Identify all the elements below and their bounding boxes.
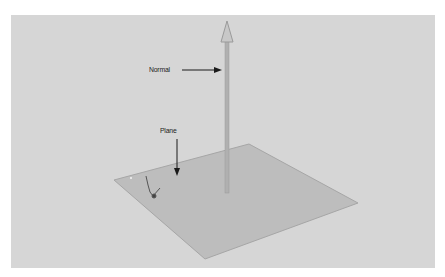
plane-label: Plane bbox=[160, 126, 177, 135]
normal-label: Normal bbox=[149, 65, 170, 74]
normal-arrowhead-icon bbox=[221, 21, 233, 42]
normal-callout-arrow-icon bbox=[182, 67, 222, 73]
plane-surface bbox=[114, 144, 358, 259]
scene-drawing bbox=[0, 0, 445, 277]
normal-vector-shaft bbox=[225, 40, 229, 193]
